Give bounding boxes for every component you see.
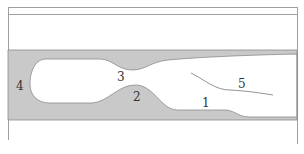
label-region-5: 5 (238, 77, 246, 91)
frame (8, 7, 298, 144)
streamline-5 (191, 73, 273, 95)
label-region-2: 2 (133, 90, 141, 104)
label-region-4: 4 (16, 79, 24, 93)
label-region-1: 1 (202, 96, 210, 110)
channel-diagram: 1 2 3 4 5 (0, 0, 304, 154)
label-region-3: 3 (117, 70, 125, 84)
gray-region (8, 50, 297, 120)
